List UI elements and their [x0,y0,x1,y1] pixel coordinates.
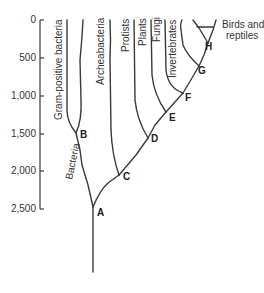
tick-label-2500: 2,500 [11,203,36,214]
tick-label-1500: 1,500 [11,128,36,139]
node-label-f: F [185,92,191,103]
branch-bacteria [76,20,83,133]
time-axis: 0 500 1,000 1,500 2,000 2,500 [11,14,44,214]
leaf-label-invertebrates: Invertebrates [167,20,178,78]
node-label-a: A [97,207,104,218]
node-label-h: H [205,41,212,52]
tick-label-500: 500 [19,52,36,63]
branch-gram-positive [67,20,76,133]
leaf-label-plants: Plants [137,18,148,46]
leaf-label-protists: Protists [120,19,131,52]
tick-label-0: 0 [30,14,36,25]
node-label-b: B [80,129,87,140]
leaf-label-gram-positive: Gram-positive bacteria [53,19,64,120]
branch-a-c [93,175,119,207]
node-label-e: E [169,112,176,123]
branch-reptiles [208,20,216,43]
tick-label-2000: 2,000 [11,165,36,176]
node-label-d: D [151,133,158,144]
leaf-label-archeabacteria: Archeabacteria [95,17,106,85]
leaf-label-birds: Birds and [222,19,264,30]
branch-c-d [119,138,148,175]
phylogenetic-tree-diagram: 0 500 1,000 1,500 2,000 2,500 [0,0,264,293]
node-label-g: G [198,65,206,76]
node-label-c: C [123,171,130,182]
leaf-label-bacteria: Bacteria [63,142,81,181]
branch-e-f [166,93,183,112]
tree-branches [67,20,216,272]
branch-archeabacteria [110,20,119,175]
leaf-label-reptiles: reptiles [226,30,258,41]
branch-f-g [183,66,199,93]
tick-label-1000: 1,000 [11,90,36,101]
leaf-label-fungi: Fungi [151,17,162,42]
branch-birds [193,20,208,43]
branch-invertebrates [181,20,199,66]
